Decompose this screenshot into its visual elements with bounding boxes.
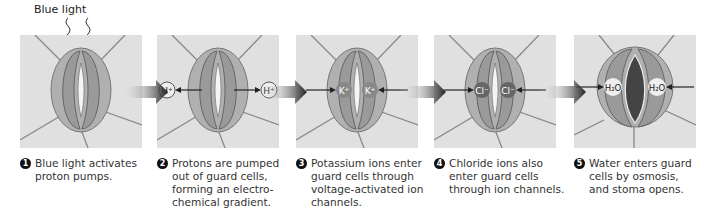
caption-text: Potassium ions enter guard cells through… bbox=[311, 157, 423, 209]
step-number-badge: 4 bbox=[434, 158, 445, 169]
caption-text: Blue light activates proton pumps. bbox=[35, 157, 137, 183]
step-number-badge: 2 bbox=[157, 158, 168, 169]
step-arrow-icon bbox=[118, 80, 168, 104]
caption-text: Protons are pumped out of guard cells, f… bbox=[172, 157, 279, 209]
step-number-badge: 5 bbox=[574, 158, 585, 169]
caption-text: Chloride ions also enter guard cells thr… bbox=[449, 157, 564, 196]
step-number-badge: 3 bbox=[296, 158, 307, 169]
caption-text: Water enters guard cells by osmosis, and… bbox=[589, 157, 692, 196]
step-number-badge: 1 bbox=[20, 158, 31, 169]
